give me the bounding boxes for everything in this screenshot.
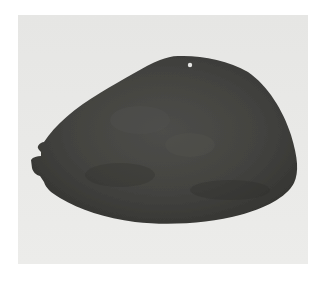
stone-plaque-shape [31, 56, 297, 224]
suspension-hole [188, 63, 192, 67]
stone-plaque-image [0, 0, 326, 282]
